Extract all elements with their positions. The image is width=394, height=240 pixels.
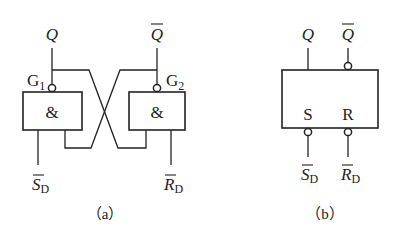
- b-sd-bar-label: SD: [301, 165, 319, 186]
- b-r-input-bubble: [344, 128, 351, 135]
- b-q-bar-bubble: [344, 62, 351, 69]
- q-label: Q: [46, 25, 58, 44]
- gate-g1-and-symbol: &: [45, 103, 58, 122]
- g1-inversion-bubble: [48, 84, 55, 91]
- caption-b: （b）: [306, 206, 344, 222]
- b-s-input-bubble: [304, 128, 311, 135]
- rs-latch-figure: & & G1 G2 Q Q SD RD （a） S: [0, 0, 394, 240]
- rd-bar-label: RD: [163, 175, 183, 196]
- q-bar-label: Q: [151, 25, 163, 44]
- b-rd-bar-label: RD: [340, 165, 360, 186]
- pin-r-label: R: [342, 105, 354, 124]
- b-q-label: Q: [302, 25, 314, 44]
- gate-g2-and-symbol: &: [150, 103, 163, 122]
- gate-g2-label: G2: [166, 71, 184, 93]
- b-q-bar-label: Q: [342, 25, 354, 44]
- caption-a: （a）: [87, 206, 124, 222]
- pin-s-label: S: [303, 105, 312, 124]
- rs-latch-box: [282, 70, 378, 128]
- panel-a-nand-latch: & & G1 G2 Q Q SD RD （a）: [23, 24, 185, 222]
- sd-bar-label: SD: [32, 175, 50, 196]
- g2-inversion-bubble: [153, 84, 160, 91]
- gate-g1-label: G1: [27, 71, 45, 93]
- panel-b-rs-symbol: S R Q Q SD RD （b）: [282, 24, 378, 222]
